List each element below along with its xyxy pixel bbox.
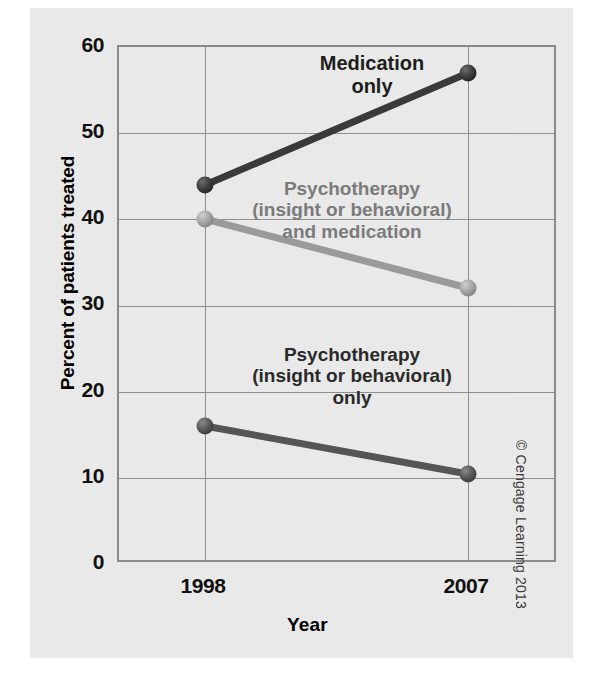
datapoint-psychotherapy-2007 [460, 466, 477, 483]
x-tick-1998: 1998 [180, 574, 225, 598]
y-tick-50: 50 [0, 119, 104, 143]
series-psychotherapy-only [197, 418, 477, 483]
y-tick-30: 30 [0, 291, 104, 315]
series-label-psychotherapy-line2: (insight or behavioral) [232, 365, 472, 386]
y-axis-tick-labels: 60 50 40 30 20 10 0 [0, 0, 108, 673]
series-label-psychotherapy-line1: Psychotherapy [232, 344, 472, 365]
figure-canvas: 60 50 40 30 20 10 0 Percent of patients … [0, 0, 615, 673]
series-psychotherapy-only-line [205, 426, 468, 474]
y-tick-60: 60 [0, 33, 104, 57]
series-label-psychotherapy-only: Psychotherapy (insight or behavioral) on… [232, 344, 472, 408]
series-label-combo-line2: (insight or behavioral) [232, 199, 472, 220]
datapoint-combo-2007 [460, 280, 477, 297]
series-label-medication-line2: only [282, 75, 462, 98]
y-tick-40: 40 [0, 205, 104, 229]
series-lines-svg [119, 47, 558, 564]
series-label-medication-line1: Medication [282, 52, 462, 75]
y-tick-10: 10 [0, 464, 104, 488]
plot-area [117, 45, 556, 562]
series-label-psychotherapy-and-medication: Psychotherapy (insight or behavioral) an… [232, 178, 472, 242]
datapoint-psychotherapy-1998 [197, 418, 214, 435]
datapoint-medication-1998 [197, 177, 214, 194]
datapoint-medication-2007 [460, 65, 477, 82]
copyright-credit: © Cengage Learning 2013 [513, 440, 529, 640]
y-tick-0: 0 [0, 550, 104, 574]
y-tick-20: 20 [0, 378, 104, 402]
series-label-combo-line3: and medication [232, 221, 472, 242]
datapoint-combo-1998 [197, 211, 214, 228]
x-tick-2007: 2007 [443, 574, 488, 598]
y-axis-title: Percent of patients treated [57, 143, 79, 403]
series-label-combo-line1: Psychotherapy [232, 178, 472, 199]
series-label-medication-only: Medication only [282, 52, 462, 97]
series-label-psychotherapy-line3: only [232, 387, 472, 408]
